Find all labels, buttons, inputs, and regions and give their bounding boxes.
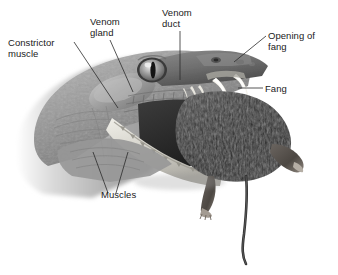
label-venom-duct: Venomduct xyxy=(162,8,192,29)
prey-tail xyxy=(243,176,247,264)
label-fang: Fang xyxy=(265,84,287,95)
label-muscles: Muscles xyxy=(101,190,136,201)
label-venom-gland-line2: gland xyxy=(90,27,114,38)
label-fang-line1: Fang xyxy=(265,83,287,94)
shadow xyxy=(134,174,226,190)
label-constrictor-muscle-line1: Constrictor xyxy=(8,37,54,48)
label-opening-of-fang-line1: Opening of xyxy=(268,30,315,41)
anatomy-figure: Constrictormuscle Venomgland Venomduct O… xyxy=(0,0,338,275)
label-venom-duct-line1: Venom xyxy=(162,7,192,18)
label-constrictor-muscle-line2: muscle xyxy=(8,48,38,59)
label-venom-duct-line2: duct xyxy=(162,18,180,29)
label-constrictor-muscle: Constrictormuscle xyxy=(8,38,54,59)
label-venom-gland: Venomgland xyxy=(90,17,120,38)
label-venom-gland-line1: Venom xyxy=(90,16,120,27)
label-muscles-line1: Muscles xyxy=(101,189,136,200)
label-opening-of-fang-line2: fang xyxy=(268,41,287,52)
label-opening-of-fang: Opening offang xyxy=(268,31,315,52)
